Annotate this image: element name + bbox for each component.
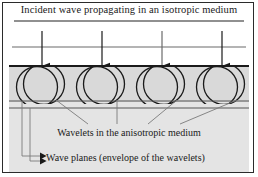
wavelets-label: Wavelets in the anisotropic medium [0,127,258,138]
wave-planes-label: Wave planes (envelope of the wavelets) [46,152,205,163]
medium-slab-upper [9,66,249,102]
diagram-canvas [0,0,258,177]
figure-container: Incident wave propagating in an isotropi… [0,0,258,177]
incident-ray-group [42,31,222,66]
